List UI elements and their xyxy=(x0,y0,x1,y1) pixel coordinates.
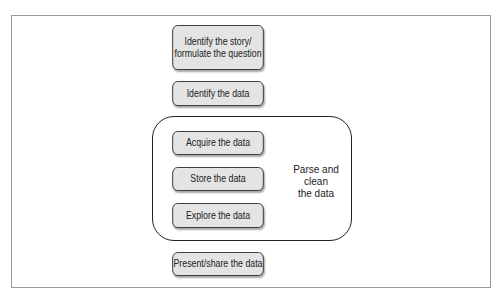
step-explore-data: Explore the data xyxy=(172,203,264,228)
step-label: Store the data xyxy=(190,173,245,185)
step-identify-data: Identify the data xyxy=(172,81,264,106)
step-label-line: formulate the question xyxy=(174,48,261,60)
group-label-line: the data xyxy=(282,188,350,200)
step-label-line: Identify the story/ xyxy=(174,36,261,48)
step-present-data: Present/share the data xyxy=(172,252,264,276)
group-label-line: Parse and clean xyxy=(282,164,350,188)
step-label: Identify the data xyxy=(187,88,250,100)
step-label: Explore the data xyxy=(186,210,250,222)
step-label: Present/share the data xyxy=(173,258,262,270)
step-store-data: Store the data xyxy=(172,167,264,191)
parse-clean-label: Parse and clean the data xyxy=(282,164,350,200)
step-identify-story: Identify the story/ formulate the questi… xyxy=(172,25,264,70)
step-acquire-data: Acquire the data xyxy=(172,131,264,155)
step-label: Acquire the data xyxy=(186,137,250,149)
